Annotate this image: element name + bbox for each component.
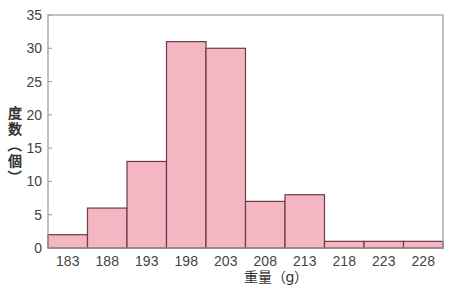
x-tick-label: 223 <box>372 253 396 269</box>
y-tick-label: 15 <box>26 140 42 156</box>
y-label-char: ） <box>7 170 23 184</box>
x-tick-label: 218 <box>333 253 357 269</box>
y-tick-label: 35 <box>26 7 42 23</box>
histogram-bar <box>404 241 444 248</box>
x-tick-label: 208 <box>254 253 278 269</box>
histogram-chart: 05101520253035 1831881931982032082132182… <box>0 0 450 292</box>
y-axis-label: 度数（個） <box>7 105 23 184</box>
x-axis-ticks: 183188193198203208213218223228 <box>56 253 435 269</box>
histogram-bar <box>285 195 325 248</box>
y-tick-label: 20 <box>26 107 42 123</box>
histogram-bar <box>167 42 207 248</box>
x-tick-label: 193 <box>135 253 159 269</box>
y-tick-label: 30 <box>26 40 42 56</box>
x-tick-label: 213 <box>293 253 317 269</box>
x-tick-label: 188 <box>96 253 120 269</box>
y-tick-label: 0 <box>34 240 42 256</box>
histogram-bar <box>127 161 167 248</box>
x-axis-label: 重量（g） <box>244 269 309 285</box>
histogram-bar <box>246 201 286 248</box>
y-label-char: 個 <box>7 153 22 169</box>
y-tick-label: 10 <box>26 173 42 189</box>
histogram-bar <box>48 235 88 248</box>
y-label-char: 度 <box>8 105 23 121</box>
y-label-char: 数 <box>8 121 23 137</box>
histogram-bar <box>364 241 404 248</box>
histogram-bar <box>206 48 246 248</box>
x-tick-label: 198 <box>175 253 199 269</box>
x-tick-label: 203 <box>214 253 238 269</box>
y-tick-label: 25 <box>26 74 42 90</box>
bars-group <box>48 42 443 248</box>
histogram-bar <box>325 241 365 248</box>
x-tick-label: 228 <box>412 253 436 269</box>
y-label-char: （ <box>7 138 23 152</box>
y-tick-label: 5 <box>34 207 42 223</box>
x-tick-label: 183 <box>56 253 80 269</box>
histogram-bar <box>88 208 128 248</box>
